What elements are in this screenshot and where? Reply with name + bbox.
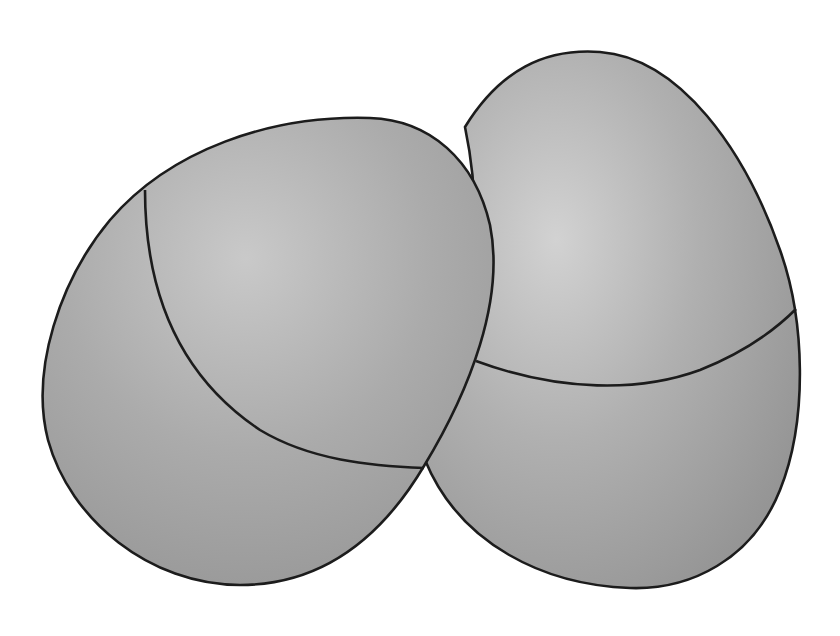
left-egg <box>43 118 494 585</box>
egg-illustration <box>0 0 840 636</box>
left-egg-shell <box>43 118 494 585</box>
eggs-svg <box>0 0 840 636</box>
